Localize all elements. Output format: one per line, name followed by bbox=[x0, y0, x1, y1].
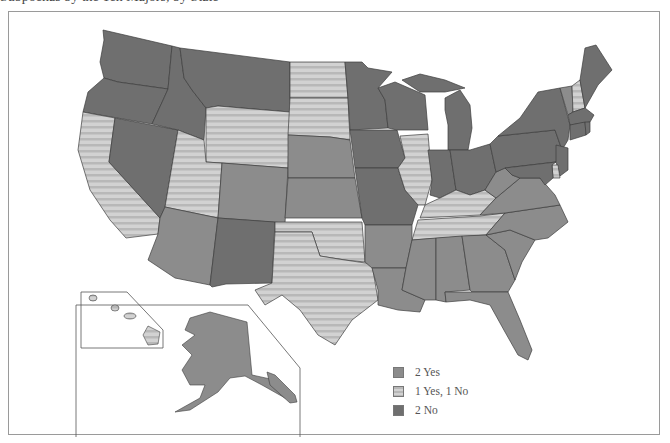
state-ct bbox=[570, 122, 586, 140]
legend-item-split: 1 Yes, 1 No bbox=[393, 382, 468, 400]
state-ar bbox=[365, 225, 412, 268]
state-me bbox=[580, 45, 612, 108]
state-ne bbox=[288, 135, 355, 178]
state-nd bbox=[290, 62, 348, 98]
state-hi-maui bbox=[124, 313, 136, 319]
state-hi-oahu bbox=[111, 305, 119, 311]
state-co bbox=[218, 163, 288, 223]
legend-label: 2 No bbox=[415, 404, 438, 416]
us-map bbox=[0, 0, 670, 443]
legend-item-2-no: 2 No bbox=[393, 401, 468, 419]
state-hi-big-island bbox=[143, 326, 160, 345]
legend-label: 2 Yes bbox=[415, 366, 440, 378]
state-wy bbox=[206, 106, 290, 168]
state-fl bbox=[445, 292, 532, 360]
state-nm bbox=[210, 218, 275, 287]
state-ia bbox=[350, 130, 405, 168]
state-hi-kauai bbox=[89, 295, 97, 301]
state-ak bbox=[175, 312, 295, 412]
swatch-2-no bbox=[393, 405, 404, 416]
swatch-split bbox=[393, 386, 404, 397]
legend-label: 1 Yes, 1 No bbox=[415, 385, 468, 397]
map-legend: 2 Yes 1 Yes, 1 No 2 No bbox=[393, 363, 468, 420]
state-ks bbox=[285, 178, 362, 218]
state-sd bbox=[288, 98, 350, 140]
swatch-2-yes bbox=[393, 367, 404, 378]
state-ri bbox=[585, 122, 590, 135]
legend-item-2-yes: 2 Yes bbox=[393, 363, 468, 381]
state-mi bbox=[445, 90, 472, 150]
